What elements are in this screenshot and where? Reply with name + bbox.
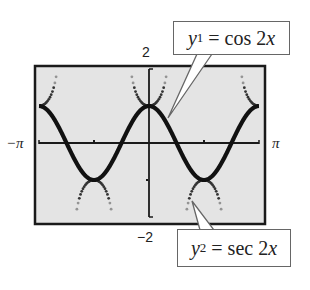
callout-y1-var: y: [188, 27, 197, 50]
x-tick: [203, 140, 205, 142]
y-tick: [146, 179, 148, 181]
y-max-label: 2: [142, 45, 150, 59]
callout-y2-rest: = sec 2: [206, 237, 268, 260]
callout-y1-cos: y1 = cos 2x: [173, 21, 290, 55]
x-max-label: π: [272, 136, 280, 151]
callout-y1-xvar: x: [266, 27, 275, 50]
x-min-label: −π: [6, 136, 24, 151]
callout-y2-xvar: x: [268, 237, 277, 260]
callout-y2-sec: y2 = sec 2x: [177, 229, 291, 267]
callout-y2-var: y: [191, 237, 200, 260]
callout-y1-rest: = cos 2: [203, 27, 266, 50]
y-min-label: −2: [137, 230, 153, 244]
x-tick: [93, 140, 95, 142]
